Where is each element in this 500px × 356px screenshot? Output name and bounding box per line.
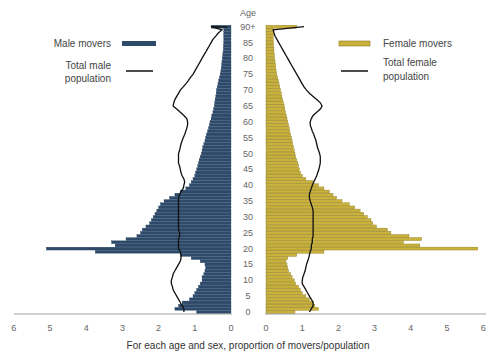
legend-total-male-label-1: Total male <box>65 60 111 71</box>
age-tick: 20 <box>243 244 253 254</box>
female-bar <box>266 63 275 66</box>
age-tick: 10 <box>243 275 253 285</box>
female-bar <box>266 181 313 184</box>
female-bar <box>266 269 288 272</box>
female-bar <box>266 285 299 288</box>
female-bar <box>266 168 299 171</box>
female-bar <box>266 105 284 108</box>
age-tick: 50 <box>243 149 253 159</box>
male-bar <box>197 288 231 291</box>
male-bar <box>203 146 231 149</box>
male-bar <box>210 120 231 123</box>
x-tick: 0 <box>228 323 233 333</box>
female-bar <box>266 219 371 222</box>
male-bar <box>46 247 231 250</box>
male-bar <box>151 219 231 222</box>
male-bar <box>223 51 231 54</box>
female-bar <box>266 95 282 98</box>
female-bar <box>266 238 422 241</box>
male-bar <box>216 95 231 98</box>
male-bar <box>205 263 231 266</box>
female-bar <box>266 101 283 104</box>
x-tick: 2 <box>156 323 161 333</box>
female-bar <box>266 231 391 234</box>
legend-total-female-label-1: Total female <box>383 57 437 68</box>
male-bar <box>196 171 231 174</box>
age-tick: 65 <box>243 101 253 111</box>
x-tick: 2 <box>336 323 341 333</box>
male-bar <box>191 257 231 260</box>
male-bar <box>222 57 231 60</box>
male-bar <box>142 228 231 231</box>
x-tick: 5 <box>444 323 449 333</box>
female-bar <box>266 85 280 88</box>
female-bar <box>266 234 409 237</box>
age-tick: 40 <box>243 180 253 190</box>
female-bar <box>266 152 295 155</box>
male-bar <box>150 222 231 225</box>
x-tick: 1 <box>192 323 197 333</box>
female-bar <box>266 273 291 276</box>
male-bar <box>224 41 231 44</box>
male-bar <box>193 295 231 298</box>
female-bar <box>266 60 275 63</box>
female-bar <box>266 174 302 177</box>
age-tick: 45 <box>243 164 253 174</box>
male-bar <box>221 66 231 69</box>
male-bar <box>195 174 231 177</box>
legend-male-movers-label: Male movers <box>54 38 111 49</box>
age-tick: 60 <box>243 117 253 127</box>
female-bar <box>266 276 292 279</box>
male-bar <box>207 130 231 133</box>
male-bar <box>211 117 231 120</box>
age-tick: 30 <box>243 212 253 222</box>
female-bar <box>266 73 277 76</box>
age-tick: 70 <box>243 85 253 95</box>
age-tick: 0 <box>245 307 250 317</box>
female-bar <box>266 117 287 120</box>
male-bar <box>202 279 231 282</box>
male-bar <box>224 38 231 41</box>
female-bar <box>266 54 274 57</box>
male-bar <box>223 54 231 57</box>
male-bar <box>175 193 231 196</box>
male-bar <box>153 215 231 218</box>
female-bar <box>266 257 288 260</box>
female-bar <box>266 177 306 180</box>
female-bar <box>266 263 287 266</box>
female-bar <box>266 28 273 31</box>
female-bar <box>266 158 297 161</box>
female-bar <box>266 98 283 101</box>
age-tick: 25 <box>243 228 253 238</box>
male-bar <box>214 105 231 108</box>
x-tick: 1 <box>300 323 305 333</box>
female-bar <box>266 66 276 69</box>
female-bar <box>266 215 367 218</box>
male-bar <box>204 143 231 146</box>
male-bar <box>200 282 231 285</box>
female-bar <box>266 253 297 256</box>
age-axis-title: Age <box>240 8 256 18</box>
legend-total-female-label-2: population <box>383 71 429 82</box>
female-bar <box>266 311 295 314</box>
x-tick: 0 <box>263 323 268 333</box>
female-bar <box>266 304 315 307</box>
female-bar <box>266 133 291 136</box>
male-bar <box>215 98 231 101</box>
female-bar <box>266 82 279 85</box>
male-bar <box>164 200 231 203</box>
male-bar <box>209 127 231 130</box>
male-bar <box>200 260 231 263</box>
female-bar <box>266 70 276 73</box>
male-bar <box>189 184 231 187</box>
legend-male: Male movers Total male population <box>54 38 156 84</box>
male-bar <box>219 76 231 79</box>
age-tick: 5 <box>245 291 250 301</box>
female-bar <box>266 288 300 291</box>
male-bar <box>222 60 231 63</box>
male-bar <box>198 285 231 288</box>
female-bar <box>266 292 302 295</box>
male-bar <box>206 266 231 269</box>
female-bar <box>266 35 273 38</box>
female-bar <box>266 225 376 228</box>
